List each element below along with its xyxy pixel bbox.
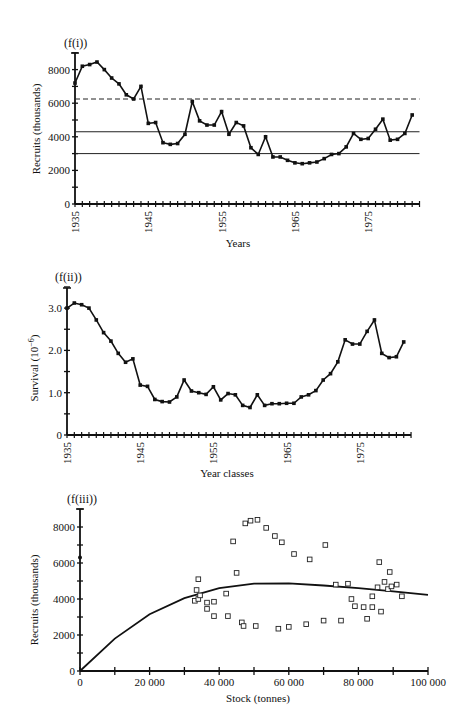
scatter-point xyxy=(194,588,199,593)
scatter-point xyxy=(400,594,405,599)
data-point xyxy=(94,318,98,322)
x-tick-label: 1975 xyxy=(362,211,374,234)
data-point xyxy=(190,389,194,393)
scatter-point xyxy=(379,609,384,614)
scatter-point xyxy=(394,582,399,587)
data-point xyxy=(330,153,334,157)
data-point xyxy=(147,122,151,126)
scatter-point xyxy=(365,617,370,622)
data-point xyxy=(161,141,165,145)
data-point xyxy=(337,152,341,156)
panel-title-f-i: (f(i)) xyxy=(64,36,87,50)
data-point xyxy=(205,123,209,127)
data-point xyxy=(102,331,106,335)
recruits-line xyxy=(75,62,412,164)
scatter-point xyxy=(243,521,248,526)
scatter-point xyxy=(253,624,258,629)
x-tick-label: 1945 xyxy=(142,211,154,234)
scatter-point xyxy=(375,585,380,590)
x-tick-label: 1935 xyxy=(69,211,81,234)
x-tick-label: 1965 xyxy=(289,211,301,234)
scatter-point xyxy=(273,534,278,539)
x-axis-label: Year classes xyxy=(200,467,254,479)
data-point xyxy=(226,392,230,396)
data-point xyxy=(220,110,224,114)
scatter-point xyxy=(231,539,236,544)
data-point xyxy=(307,393,311,397)
data-point xyxy=(344,145,348,149)
data-point xyxy=(410,113,414,117)
y-tick-label: 4000 xyxy=(48,131,71,143)
panel-title-f-iii: (f(iii)) xyxy=(67,492,97,506)
y-tick-label: 6000 xyxy=(48,97,71,109)
x-tick-label: 1955 xyxy=(207,442,219,465)
data-point xyxy=(132,97,136,101)
data-series xyxy=(65,301,405,409)
y-tick-label: 0 xyxy=(70,665,76,677)
data-point xyxy=(366,137,370,141)
scatter-point xyxy=(349,597,354,602)
data-point xyxy=(168,400,172,404)
data-point xyxy=(109,339,113,343)
scatter-point xyxy=(205,600,210,605)
data-point xyxy=(138,383,142,387)
figure: (f(i)) Recruits (thousands) Years 020004… xyxy=(0,0,464,706)
x-tick-label: 60 000 xyxy=(274,676,305,688)
scatter-point xyxy=(198,593,203,598)
y-tick-label: 2.0 xyxy=(48,344,62,356)
data-point xyxy=(286,159,290,163)
data-point xyxy=(285,401,289,405)
y-tick-label: 8000 xyxy=(53,521,76,533)
y-axis-label: Recruits (thousands) xyxy=(28,554,41,645)
data-point xyxy=(182,378,186,382)
data-point xyxy=(263,404,267,408)
data-point xyxy=(278,155,282,159)
chart-stock-recruitment: (f(iii)) Recruits (thousands) Stock (ton… xyxy=(28,492,446,705)
data-point xyxy=(352,132,356,136)
scatter-point xyxy=(255,518,260,523)
data-point xyxy=(197,391,201,395)
data-point xyxy=(329,372,333,376)
axes: 01.02.03.019351945195519651975 xyxy=(48,287,411,464)
scatter-point xyxy=(292,552,297,557)
scatter-point xyxy=(224,591,229,596)
scatter-point xyxy=(323,543,328,548)
y-tick-label: 6000 xyxy=(53,557,76,569)
data-point xyxy=(277,402,281,406)
data-point xyxy=(343,338,347,342)
scatter-point xyxy=(248,518,253,523)
data-point xyxy=(73,301,77,305)
scatter-point xyxy=(212,599,217,604)
scatter-point xyxy=(370,605,375,610)
y-axis-label: Survival (10−6) xyxy=(27,334,41,401)
origin-point xyxy=(78,556,82,560)
x-tick-label: 1965 xyxy=(281,442,293,465)
data-point xyxy=(116,352,120,356)
data-point xyxy=(381,117,385,121)
data-point xyxy=(175,395,179,399)
scatter-point xyxy=(333,582,338,587)
scatter-point xyxy=(287,625,292,630)
data-point xyxy=(73,81,77,85)
data-point xyxy=(219,398,223,402)
data-point xyxy=(88,63,92,67)
y-tick-label: 0 xyxy=(57,429,63,441)
scatter-point xyxy=(212,614,217,619)
scatter-point xyxy=(241,624,246,629)
data-point xyxy=(299,395,303,399)
survival-line xyxy=(67,303,404,407)
data-point xyxy=(351,342,355,346)
scatter-point xyxy=(226,614,231,619)
scatter-point xyxy=(304,622,309,627)
data-point xyxy=(241,404,245,408)
data-point xyxy=(358,342,362,346)
chart-recruits-by-year: (f(i)) Recruits (thousands) Years 020004… xyxy=(30,36,420,249)
scatter-point xyxy=(276,626,281,631)
data-point xyxy=(322,157,326,161)
x-tick-label: 1935 xyxy=(61,442,73,465)
y-tick-label: 8000 xyxy=(48,64,71,76)
data-point xyxy=(125,93,129,97)
scatter-point xyxy=(307,557,312,562)
x-tick-label: 1975 xyxy=(354,442,366,465)
scatter-point xyxy=(389,584,394,589)
